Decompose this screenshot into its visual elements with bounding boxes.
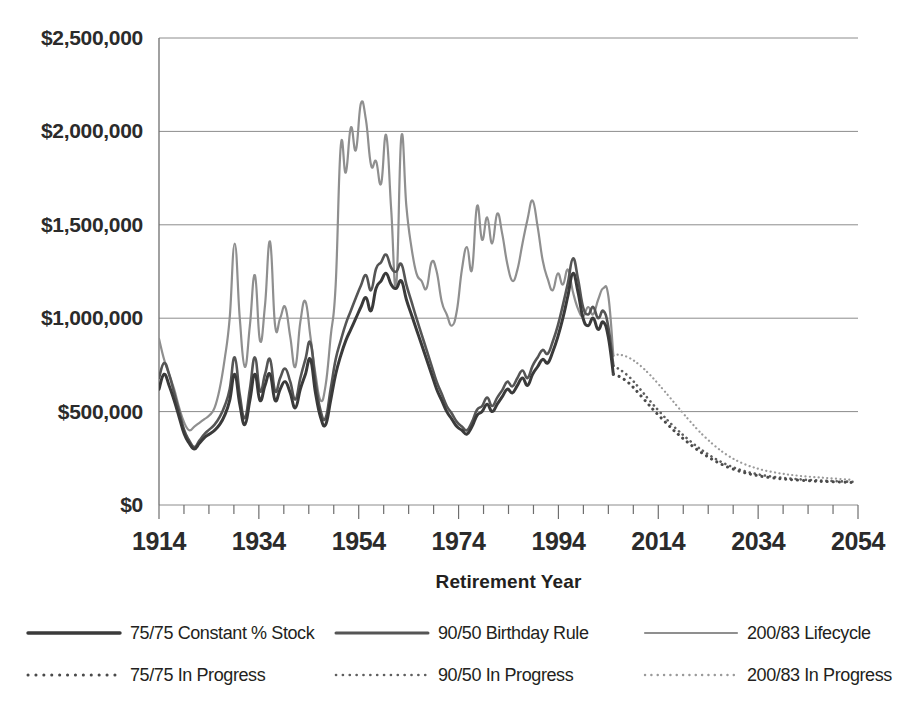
- chart-legend: 75/75 Constant % Stock90/50 Birthday Rul…: [28, 623, 892, 685]
- y-axis-tick-label: $2,500,000: [41, 26, 143, 49]
- x-axis-tick-label: 1994: [531, 527, 586, 555]
- retirement-balance-chart: $0$500,000$1,000,000$1,500,000$2,000,000…: [0, 0, 901, 713]
- x-axis-tick-label: 1914: [132, 527, 187, 555]
- series-line: [613, 366, 853, 482]
- series-group: [159, 101, 853, 482]
- series-line: [159, 101, 613, 430]
- legend-item[interactable]: 200/83 Lifecycle: [645, 623, 871, 643]
- legend-label: 90/50 In Progress: [438, 665, 574, 685]
- x-axis-tick-label: 1934: [232, 527, 287, 555]
- series-line: [613, 374, 853, 482]
- x-axis-tick-label: 1954: [332, 527, 387, 555]
- y-axis-tick-label: $2,000,000: [41, 119, 143, 142]
- x-axis-tick-label: 2034: [731, 527, 786, 555]
- legend-item[interactable]: 200/83 In Progress: [645, 665, 892, 685]
- x-axis-title: Retirement Year: [436, 571, 582, 592]
- legend-item[interactable]: 75/75 In Progress: [28, 665, 266, 685]
- legend-item[interactable]: 90/50 In Progress: [336, 665, 574, 685]
- y-axis-tick-label: $500,000: [58, 400, 143, 423]
- chart-canvas: $0$500,000$1,000,000$1,500,000$2,000,000…: [0, 0, 901, 713]
- legend-label: 200/83 Lifecycle: [747, 623, 871, 643]
- legend-label: 200/83 In Progress: [747, 665, 892, 685]
- series-line: [159, 255, 613, 448]
- y-axis-tick-label: $1,000,000: [41, 306, 143, 329]
- series-line: [613, 355, 853, 480]
- legend-label: 75/75 In Progress: [130, 665, 266, 685]
- x-axis-tick-label: 1974: [432, 527, 487, 555]
- y-axis-tick-label: $0: [120, 493, 143, 516]
- x-axis-tick-label: 2014: [631, 527, 686, 555]
- x-axis-ticks: [159, 505, 858, 519]
- series-line: [159, 273, 613, 449]
- legend-item[interactable]: 90/50 Birthday Rule: [336, 623, 589, 643]
- legend-label: 75/75 Constant % Stock: [130, 623, 316, 643]
- legend-label: 90/50 Birthday Rule: [438, 623, 589, 643]
- y-axis-tick-label: $1,500,000: [41, 213, 143, 236]
- x-axis-tick-label: 2054: [831, 527, 886, 555]
- legend-item[interactable]: 75/75 Constant % Stock: [28, 623, 316, 643]
